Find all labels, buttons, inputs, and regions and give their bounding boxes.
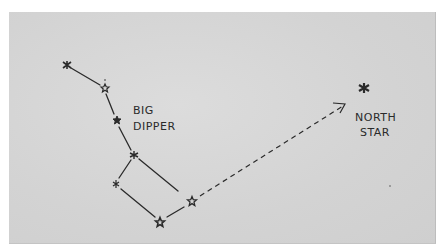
line-bowl-bottom (121, 189, 155, 217)
star-icon (113, 116, 121, 124)
north-star-icon (359, 83, 369, 93)
star-icon (101, 79, 109, 92)
star-icon (156, 218, 165, 227)
star-icon (63, 61, 71, 69)
line-bowl-left (119, 160, 131, 178)
star-icon (188, 197, 197, 206)
star-icon (113, 180, 119, 188)
speck (389, 185, 391, 187)
line-handle-1 (71, 68, 100, 85)
line-bowl-top (139, 159, 178, 191)
line-handle-2 (106, 94, 114, 114)
label-star: STAR (360, 127, 390, 138)
line-bowl-right (167, 207, 184, 217)
constellation-lines (71, 68, 184, 217)
label-dipper: DIPPER (133, 121, 176, 132)
stars (63, 61, 391, 227)
line-handle-3 (119, 127, 131, 150)
dashed-pointer-line (200, 106, 343, 196)
label-north: NORTH (355, 112, 396, 123)
pointer-arrow (200, 103, 345, 196)
label-big: BIG (133, 105, 154, 116)
star-icon (130, 151, 138, 159)
